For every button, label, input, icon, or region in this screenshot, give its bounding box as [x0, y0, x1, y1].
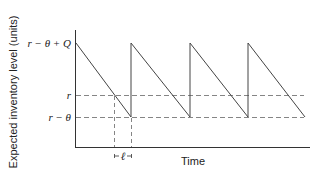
x-axis-label: Time — [181, 155, 205, 167]
inventory-sawtooth-line — [76, 43, 305, 117]
ytick-peak-label: r − θ + Q — [28, 37, 72, 49]
lead-time-label: ℓ — [121, 150, 126, 162]
y-axis-label: Expected inventory level (units) — [7, 16, 19, 169]
ytick-reorder-label: r — [67, 89, 72, 101]
ytick-trough-label: r − θ — [48, 111, 71, 123]
inventory-sawtooth-diagram: r − θ + Q r r − θ ℓ Time Expected invent… — [0, 0, 322, 176]
